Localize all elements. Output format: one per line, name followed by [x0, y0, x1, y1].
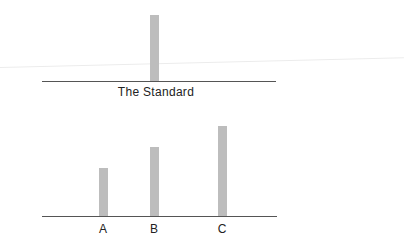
label-c: C — [212, 223, 232, 235]
standard-bar — [150, 15, 159, 81]
scan-artifact-line — [0, 57, 404, 68]
bar-a — [99, 168, 108, 216]
standard-baseline — [42, 81, 276, 82]
bar-b — [150, 147, 159, 216]
standard-caption: The Standard — [106, 86, 206, 98]
comparison-baseline — [42, 216, 277, 217]
label-b: B — [144, 223, 164, 235]
label-a: A — [93, 223, 113, 235]
bar-c — [218, 126, 227, 216]
